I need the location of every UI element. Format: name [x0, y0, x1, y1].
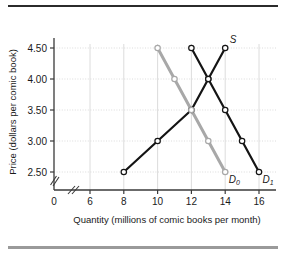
data-point	[155, 138, 160, 143]
data-point	[256, 169, 261, 174]
data-point	[223, 107, 228, 112]
x-tick-label: 6	[87, 196, 93, 207]
x-tick-label: 14	[220, 196, 232, 207]
data-point	[121, 169, 126, 174]
y-tick-label: 3.50	[28, 105, 48, 116]
data-point	[155, 45, 160, 50]
x-tick-label: 10	[152, 196, 164, 207]
series-label-D1: D1	[263, 174, 274, 187]
series-label-S: S	[230, 34, 237, 45]
gridlines	[54, 44, 276, 190]
y-axis-title: Price (dollars per comic book)	[7, 49, 18, 175]
data-point	[206, 76, 211, 81]
data-point	[189, 45, 194, 50]
figure-container: 2.503.003.504.004.5006810121416 SD0D1 Qu…	[0, 0, 286, 255]
data-point	[239, 138, 244, 143]
x-tick-label: 12	[186, 196, 198, 207]
data-point	[189, 107, 194, 112]
data-point	[172, 76, 177, 81]
data-point	[223, 169, 228, 174]
data-point	[206, 138, 211, 143]
supply-demand-chart: 2.503.003.504.004.5006810121416 SD0D1 Qu…	[0, 0, 286, 255]
y-tick-label: 3.00	[28, 136, 48, 147]
x-tick-label: 16	[253, 196, 265, 207]
y-tick-label: 4.00	[28, 74, 48, 85]
series-labels: SD0D1	[229, 34, 274, 187]
series-label-D0: D0	[229, 174, 240, 187]
y-tick-label: 2.50	[28, 167, 48, 178]
x-tick-label: 0	[51, 196, 57, 207]
data-point	[223, 45, 228, 50]
x-tick-label: 8	[121, 196, 127, 207]
x-axis-title: Quantity (millions of comic books per mo…	[73, 214, 260, 225]
y-tick-label: 4.50	[28, 43, 48, 54]
